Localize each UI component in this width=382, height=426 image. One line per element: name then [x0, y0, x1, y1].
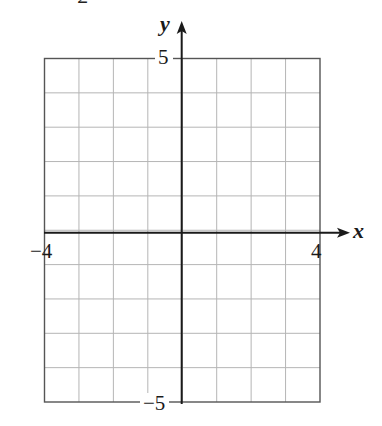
x-axis-label: x: [353, 220, 364, 242]
y-min-tick-label: −5: [140, 393, 169, 414]
x-max-tick-label: 4: [311, 241, 322, 262]
y-axis-label: y: [160, 13, 170, 35]
x-min-tick-label: −4: [30, 241, 52, 262]
coordinate-grid: [0, 0, 382, 426]
y-max-tick-label: 5: [155, 47, 173, 68]
